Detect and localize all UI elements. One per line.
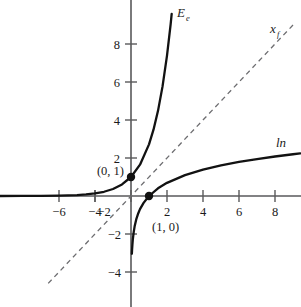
chart-figure: −6 −4 −2 2 4 6 8 8 6 4 2 −2 −4 (0, 1) (1… <box>0 0 301 307</box>
y-tick-label-4: 4 <box>114 114 121 128</box>
exponential-logarithm-plot: −6 −4 −2 2 4 6 8 8 6 4 2 −2 −4 (0, 1) (1… <box>0 0 301 307</box>
logarithm-curve-label: ln <box>276 135 286 150</box>
y-tick-label--2: −2 <box>108 228 121 242</box>
identity-line-series <box>48 25 293 283</box>
exponential-curve-label-subscript: e <box>186 13 190 23</box>
point-label-1-0: (1, 0) <box>152 220 179 234</box>
y-tick-label-8: 8 <box>114 38 120 52</box>
point-marker-0-1 <box>127 173 135 181</box>
y-tick-label-6: 6 <box>114 76 120 90</box>
x-tick-label-6: 6 <box>236 205 242 219</box>
logarithm-curve-series <box>132 153 300 253</box>
x-tick-label--2: −2 <box>97 205 110 219</box>
x-tick-label-2: 2 <box>164 205 170 219</box>
point-marker-1-0 <box>145 192 153 200</box>
x-tick-label--6: −6 <box>52 205 65 219</box>
x-tick-label-4: 4 <box>200 205 207 219</box>
exponential-curve-series <box>0 14 172 196</box>
x-tick-label-8: 8 <box>272 205 278 219</box>
exponential-curve-label: E <box>176 5 185 20</box>
y-tick-labels: 8 6 4 2 −2 −4 <box>108 38 122 280</box>
point-label-0-1: (0, 1) <box>97 164 124 178</box>
y-tick-label--4: −4 <box>108 266 122 280</box>
axes-group <box>0 0 301 307</box>
x-tick-labels: −6 −4 −2 2 4 6 8 <box>52 205 278 219</box>
identity-line-label-subscript: f <box>277 29 281 39</box>
identity-line-label: x <box>269 21 276 36</box>
